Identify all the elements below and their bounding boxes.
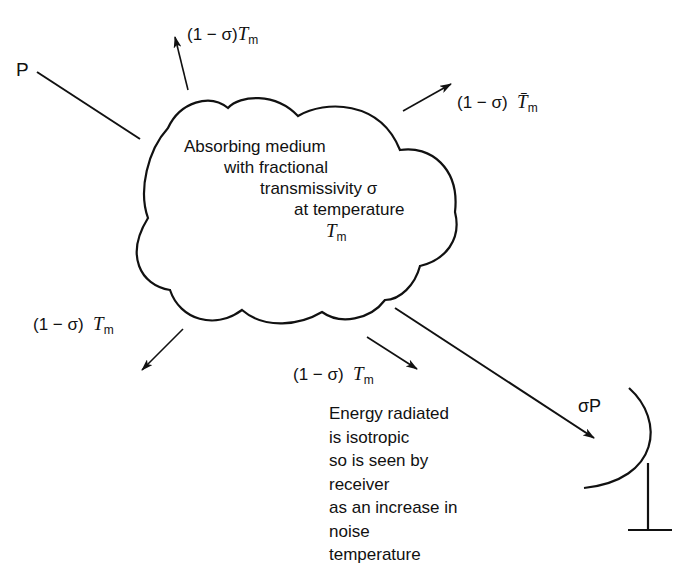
radiation-arrow-bottom [367, 337, 417, 369]
temperature-subscript: m [528, 101, 538, 115]
note-line: Energy radiated [329, 402, 458, 426]
radiation-label-bottom: (1 − σ) Tm [293, 364, 374, 386]
medium-line: with fractional [184, 157, 405, 178]
note-line: is isotropic [329, 426, 458, 450]
radiation-arrow-right [403, 84, 451, 111]
note-line: as an increase in [329, 496, 458, 520]
temperature-symbol: T̄ [517, 91, 528, 112]
medium-line: at temperature [184, 199, 405, 220]
temperature-symbol: T [326, 220, 337, 241]
medium-temperature: Tm [184, 220, 405, 244]
transmitted-signal-label: σP [578, 396, 601, 416]
radiation-label-right: (1 − σ) T̄m [457, 92, 538, 114]
medium-description: Absorbing medium with fractional transmi… [184, 136, 405, 244]
radiation-label-top: (1 − σ)Tm [187, 24, 258, 46]
radiation-prefix: (1 − σ) [457, 93, 508, 112]
note-line: so is seen by [329, 449, 458, 473]
temperature-symbol: T [238, 23, 249, 44]
medium-line: Absorbing medium [184, 136, 405, 157]
temperature-subscript: m [364, 373, 374, 387]
medium-line: transmissivity σ [184, 178, 405, 199]
radiation-label-left: (1 − σ) Tm [33, 314, 114, 336]
temperature-subscript: m [248, 33, 258, 47]
incident-signal-line [37, 72, 140, 139]
radiation-arrow-left [142, 329, 183, 370]
note-line: noise [329, 520, 458, 544]
temperature-subscript: m [337, 230, 347, 244]
radiation-prefix: (1 − σ) [293, 365, 344, 384]
temperature-subscript: m [104, 323, 114, 337]
incident-signal-label: P [16, 60, 29, 80]
note-line: temperature [329, 543, 458, 567]
radiation-prefix: (1 − σ) [187, 25, 238, 44]
temperature-symbol: T [93, 313, 104, 334]
temperature-symbol: T [353, 363, 364, 384]
note-line: receiver [329, 473, 458, 497]
isotropic-radiation-note: Energy radiated is isotropic so is seen … [329, 402, 458, 567]
radiation-prefix: (1 − σ) [33, 315, 84, 334]
